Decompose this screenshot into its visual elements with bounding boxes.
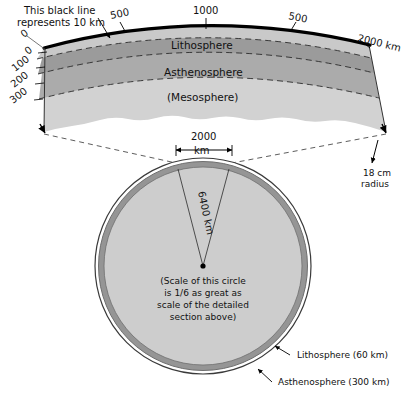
leader-right <box>232 134 386 163</box>
globe-annotation-asthenosphere: Asthenosphere (300 km) <box>278 377 389 387</box>
scale-note-line-1: (Scale of this circle <box>160 276 246 286</box>
black-line-callout-text-line-2: represents 10 km <box>17 17 105 28</box>
depth-tick-300 <box>34 99 43 100</box>
lithosphere-annotation-leader <box>275 346 290 355</box>
scale-note-line-3: scale of the detailed <box>157 300 249 310</box>
black-line-callout-text-line-1: This black line <box>23 5 95 16</box>
leader-left <box>44 134 176 163</box>
scale-note-line-2: is 1/6 as great as <box>164 288 242 298</box>
band-label-lithosphere: Lithosphere <box>171 39 233 51</box>
earth-structure-figure: This black line represents 10 km This bl… <box>0 0 410 397</box>
globe-annotation-lithosphere: Lithosphere (60 km) <box>297 350 388 360</box>
surface-label-500-left: 500 <box>109 6 130 21</box>
radius-callout-line2: radius <box>361 179 389 189</box>
width-dimension-value: 2000 <box>191 131 216 142</box>
width-dimension-unit: km <box>194 145 210 156</box>
radius-callout-line1: 18 cm <box>363 168 391 178</box>
asthenosphere-annotation-leader <box>258 369 272 382</box>
surface-label-1000: 1000 <box>193 5 218 16</box>
diagram-canvas: This black line represents 10 km This bl… <box>0 0 410 397</box>
radius-callout-arrow <box>372 140 378 163</box>
band-label-mesosphere: (Mesosphere) <box>167 91 238 103</box>
surface-label-500-right: 500 <box>288 10 309 24</box>
globe-center-point <box>200 263 205 268</box>
depth-label-top-zero: 0 <box>18 27 30 40</box>
depth-label-300: 300 <box>7 85 29 105</box>
scale-note-line-4: section above) <box>170 312 236 322</box>
band-label-asthenosphere: Asthenosphere <box>164 66 243 78</box>
